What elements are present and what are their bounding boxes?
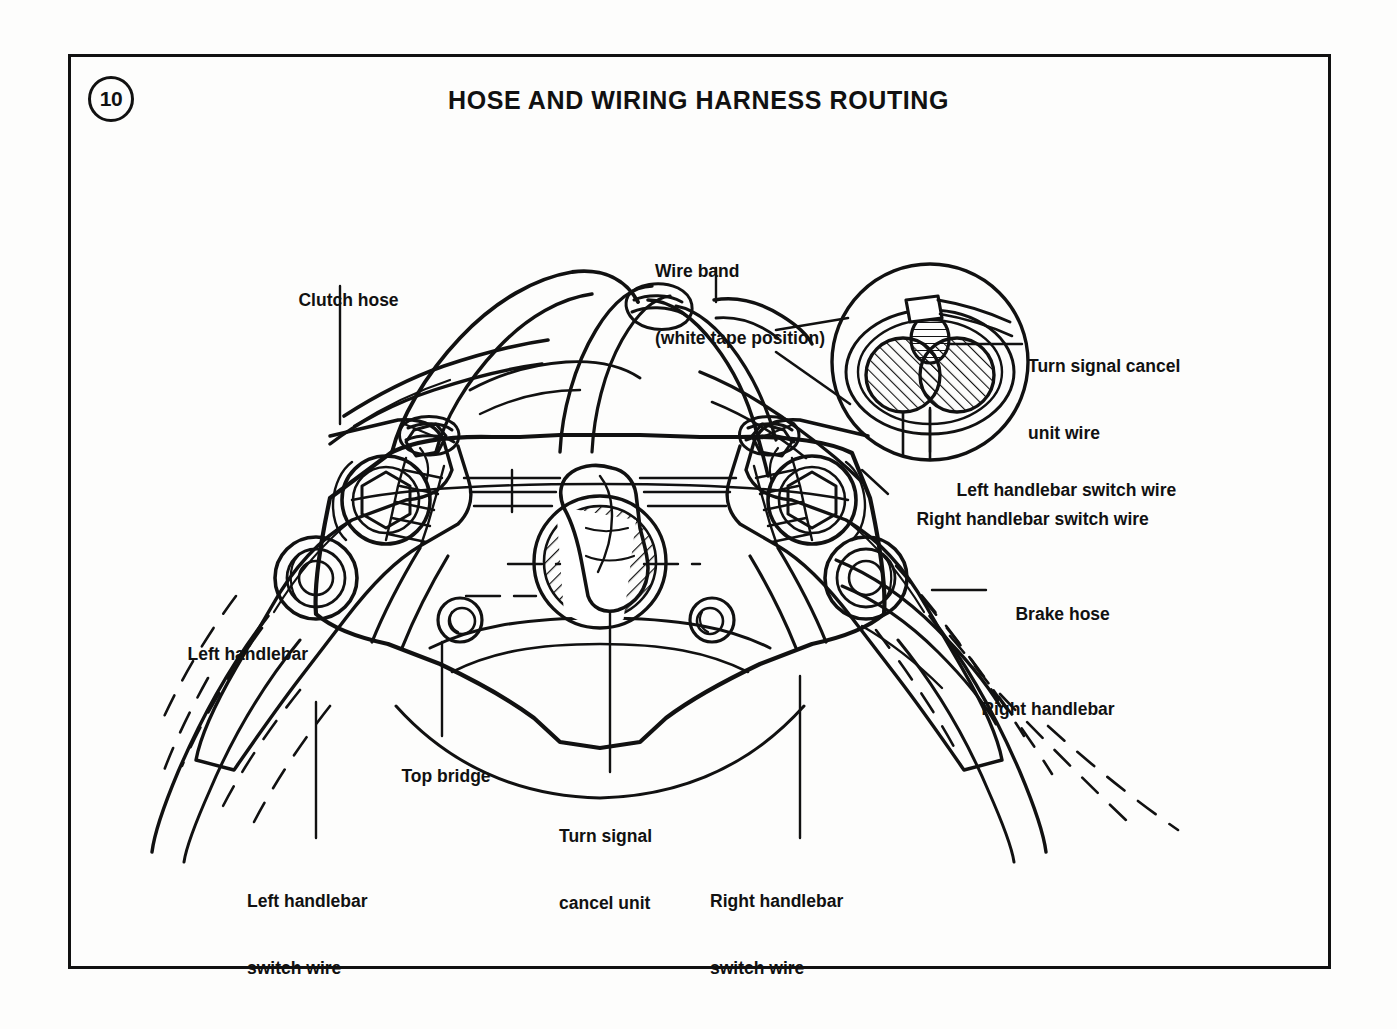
label-wire-band: Wire band (white tape position)	[655, 215, 825, 394]
label-brake-hose: Brake hose	[996, 582, 1110, 647]
label-rhsw-line1: Right handlebar	[710, 890, 843, 912]
label-right-handlebar: Right handlebar	[962, 677, 1115, 742]
label-tscu-line1: Turn signal	[559, 825, 652, 847]
label-clutch-hose: Clutch hose	[279, 268, 399, 333]
label-wire-band-line1: Wire band	[655, 260, 825, 282]
manual-page: 10 HOSE AND WIRING HARNESS ROUTING	[0, 0, 1397, 1029]
label-right-handlebar-switch-wire: Right handlebar switch wire	[710, 845, 843, 1024]
label-lhsw-line2: switch wire	[247, 957, 368, 979]
label-turn-signal-cancel-unit: Turn signal cancel unit	[559, 780, 652, 959]
label-tscu-wire-line1: Turn signal cancel	[1028, 355, 1180, 377]
label-lhsw-line1: Left handlebar	[247, 890, 368, 912]
page-title: HOSE AND WIRING HARNESS ROUTING	[0, 86, 1397, 115]
label-left-handlebar: Left handlebar	[168, 622, 308, 687]
label-tscu-line2: cancel unit	[559, 892, 652, 914]
label-tscu-wire-line2: unit wire	[1028, 422, 1180, 444]
label-left-handlebar-switch-wire: Left handlebar switch wire	[247, 845, 368, 1024]
label-wire-band-line2: (white tape position)	[655, 327, 825, 349]
label-top-bridge: Top bridge	[382, 744, 491, 809]
label-rhsw-line2: switch wire	[710, 957, 843, 979]
label-right-handlebar-switch-wire-detail: Right handlebar switch wire	[897, 487, 1149, 552]
